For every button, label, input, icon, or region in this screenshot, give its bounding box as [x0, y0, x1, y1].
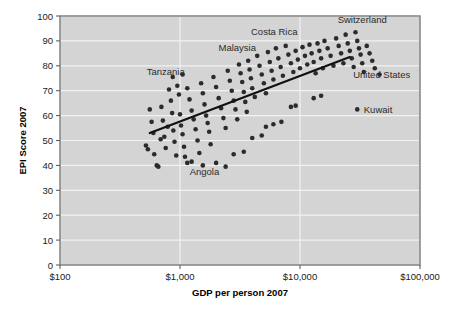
annotation-label: Kuwait — [364, 104, 393, 115]
data-point — [216, 96, 221, 101]
data-point — [247, 67, 252, 72]
data-point — [235, 117, 240, 122]
data-point — [229, 88, 234, 93]
data-point — [233, 107, 238, 112]
y-tick-label: 40 — [42, 160, 53, 171]
data-point — [146, 147, 151, 152]
data-point — [211, 75, 216, 80]
data-point — [334, 36, 339, 41]
data-point — [348, 49, 353, 54]
data-point — [264, 125, 269, 130]
y-tick-label: 60 — [42, 110, 53, 121]
data-point — [281, 73, 286, 78]
data-point — [259, 133, 264, 138]
data-point — [266, 50, 271, 55]
data-point — [328, 54, 333, 59]
scatter-chart: $100$1,000$10,000$100,000 01020304050607… — [0, 0, 462, 315]
y-tick-label: 20 — [42, 210, 53, 221]
data-point — [336, 44, 341, 49]
data-point — [367, 51, 372, 56]
data-point — [185, 86, 190, 91]
data-point — [296, 57, 301, 62]
data-point — [223, 126, 228, 131]
data-point — [207, 129, 212, 134]
data-point — [189, 108, 194, 113]
data-point — [357, 46, 362, 51]
data-point — [243, 100, 248, 105]
data-point — [240, 80, 245, 85]
data-point — [179, 123, 184, 128]
data-point — [311, 96, 316, 101]
data-point — [195, 138, 200, 143]
data-point — [264, 91, 269, 96]
data-point — [358, 52, 363, 57]
data-point — [298, 66, 303, 71]
annotation-label: United States — [353, 69, 410, 80]
data-point — [360, 61, 365, 66]
data-point — [161, 118, 166, 123]
data-point — [307, 42, 312, 47]
annotation-label: Switzerland — [338, 14, 387, 25]
data-point — [223, 164, 228, 169]
data-point — [241, 90, 246, 95]
data-point — [341, 61, 346, 66]
data-point — [185, 161, 190, 166]
data-point — [355, 107, 360, 112]
data-point — [355, 39, 360, 44]
data-point — [293, 49, 298, 54]
data-point — [170, 111, 175, 116]
data-point — [319, 93, 324, 98]
data-point — [159, 105, 164, 110]
data-point — [246, 59, 251, 64]
data-point — [339, 51, 344, 56]
x-tick-label: $1,000 — [165, 271, 194, 282]
data-point — [286, 52, 291, 57]
data-point — [317, 49, 322, 54]
data-point — [237, 62, 242, 67]
y-tick-label: 100 — [37, 11, 53, 22]
data-point — [257, 64, 262, 69]
data-point — [267, 60, 272, 65]
data-point — [252, 95, 257, 100]
data-point — [175, 83, 180, 88]
annotation-label: Costa Rica — [251, 26, 298, 37]
data-point — [205, 121, 210, 126]
data-point — [309, 51, 314, 56]
data-point — [183, 154, 188, 159]
data-point — [289, 105, 294, 110]
data-point — [156, 164, 161, 169]
data-point — [325, 46, 330, 51]
y-tick-label: 50 — [42, 135, 53, 146]
data-point — [214, 161, 219, 166]
data-point — [293, 103, 298, 108]
data-point — [169, 98, 174, 103]
data-point — [228, 78, 233, 83]
data-point — [319, 56, 324, 61]
x-axis-title: GDP per person 2007 — [192, 287, 288, 298]
data-point — [238, 71, 243, 76]
data-point — [180, 132, 185, 137]
data-point — [289, 61, 294, 66]
data-point — [187, 97, 192, 102]
data-point — [172, 139, 177, 144]
data-point — [202, 102, 207, 107]
x-tick-label: $100 — [49, 271, 70, 282]
data-point — [276, 56, 281, 61]
data-point — [278, 65, 283, 70]
data-point — [171, 128, 176, 133]
data-point — [370, 59, 375, 64]
data-point — [364, 44, 369, 49]
data-point — [162, 134, 167, 139]
data-point — [345, 41, 350, 46]
data-point — [225, 68, 230, 73]
data-point — [255, 54, 260, 59]
y-tick-label: 10 — [42, 235, 53, 246]
data-point — [147, 107, 152, 112]
data-point — [283, 44, 288, 49]
x-tick-label: $100,000 — [400, 271, 440, 282]
data-point — [177, 92, 182, 97]
data-point — [197, 151, 202, 156]
y-tick-label: 80 — [42, 60, 53, 71]
annotation-label: Angola — [190, 166, 220, 177]
data-point — [208, 142, 213, 147]
